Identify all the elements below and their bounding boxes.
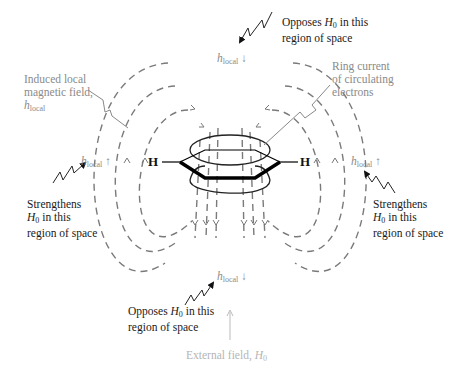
label-strengthens-right: Strengthens H0 in this region of space xyxy=(373,198,443,240)
arrow-up-icon: ↑ xyxy=(375,155,381,167)
label-external-field: External field, H0 xyxy=(186,349,267,365)
atom-h-left: H xyxy=(148,154,158,170)
benzene-ring xyxy=(162,150,298,178)
h-local-bottom: hlocal ↓ xyxy=(217,270,247,284)
atom-h-right: H xyxy=(300,154,310,170)
arrow-down-icon: ↓ xyxy=(241,52,247,64)
arrow-up-icon: ↑ xyxy=(105,155,111,167)
field-lines xyxy=(94,63,366,271)
h-local-top: hlocal ↓ xyxy=(217,52,247,66)
label-strengthens-left: Strengthens H0 in this region of space xyxy=(27,198,97,240)
label-induced-field: Induced local magnetic field, hlocal xyxy=(24,73,93,115)
h-local-left: hlocal ↑ xyxy=(81,155,111,169)
h-local-right: hlocal ↑ xyxy=(351,155,381,169)
label-opposes-bottom: Opposes H0 in this region of space xyxy=(128,305,214,334)
label-ring-current: Ring current of circulating electrons xyxy=(332,60,394,99)
ring-current xyxy=(190,135,270,193)
label-opposes-top: Opposes H0 in this region of space xyxy=(282,16,368,45)
arrow-down-icon: ↓ xyxy=(241,270,247,282)
